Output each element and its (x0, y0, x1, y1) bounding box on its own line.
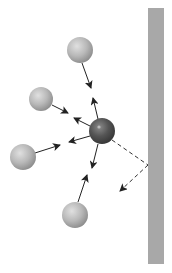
molecule-lower-left (10, 144, 36, 170)
diagram-canvas (0, 0, 172, 273)
central-particle (89, 118, 115, 144)
molecule-top (67, 37, 93, 63)
reflection-path (112, 140, 148, 191)
diagram-stage (0, 0, 172, 273)
incoming-arrows (35, 63, 91, 202)
molecule-bottom (62, 202, 88, 228)
wall (148, 8, 164, 264)
molecule-upper-left (29, 87, 53, 111)
central-particle-highlight (97, 125, 100, 128)
